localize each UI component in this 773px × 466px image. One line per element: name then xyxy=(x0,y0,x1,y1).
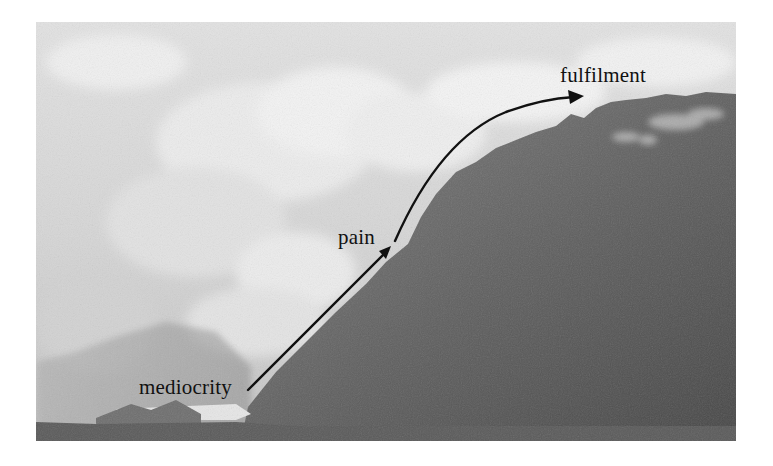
figure-canvas: mediocrity pain fulfilment xyxy=(0,0,773,466)
label-mediocrity: mediocrity xyxy=(139,377,232,398)
label-fulfilment: fulfilment xyxy=(560,65,646,86)
label-pain: pain xyxy=(338,227,375,248)
